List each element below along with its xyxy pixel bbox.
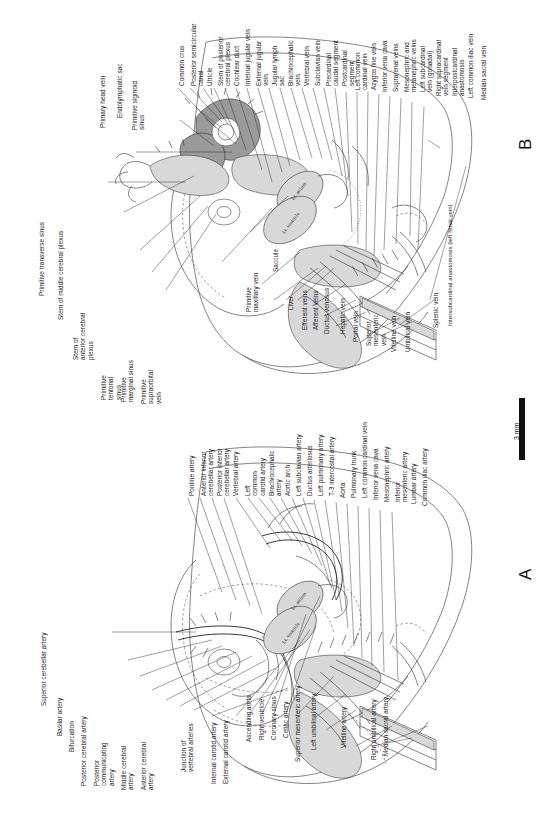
label-posterior-communicating-artery: Posterior communicating artery: [93, 742, 115, 786]
label-vertebral-artery: Vertebral artery: [232, 452, 239, 497]
label-stem-anterior-cerebral-plexus: Stem of anterior cerebral plexus: [72, 313, 94, 360]
label-brachiocephalic-vein: Brachiocephalic vein: [287, 40, 302, 86]
label-liver: Liver: [287, 296, 294, 310]
label-superior-mesenteric-vein: Superior mesenteric vein: [365, 314, 387, 346]
label-pulmonary-trunk: Pulmonary trunk: [350, 451, 357, 498]
label-junction-of-vertebral-arteries: Junction of vertebral arteries: [180, 723, 195, 772]
label-subclavian-vein: Subclavian vein: [314, 40, 321, 86]
label-primitive-transverse-sinus: Primitive transverse sinus: [38, 222, 45, 296]
label-right-ventricle: Right ventricle: [258, 699, 265, 740]
label-external-carotid-artery: External carotid artery: [222, 720, 229, 784]
label-stem-posterior-cerebral-plexus: Stem of posterior cerebral plexus: [217, 36, 232, 86]
label-cochlear-duct: Cochlear duct: [233, 46, 240, 86]
label-inferior-mesenteric-artery: Inferior mesenteric artery: [394, 452, 409, 502]
label-posterior-semicircular-canal: Posterior semicircular canal: [190, 23, 205, 86]
label-primitive-tentorial-sinus: Primitive tentorial sinus: [100, 375, 122, 400]
label-ductus-venosus: Ductus venosus: [323, 288, 330, 334]
label-aorta: Aorta: [339, 482, 346, 498]
label-ascending-aorta: Ascending aorta: [245, 695, 252, 742]
scale-bar-label: 3 mm: [513, 423, 520, 441]
label-mesonephric-artery: Mesonephric artery: [383, 446, 390, 502]
label-posterior-inferior-cerebellar-artery: Posterior inferior cerebellar artery: [216, 448, 231, 496]
label-hepatic-vein: Hepatic vein: [339, 298, 346, 334]
label-lumbar-artery: Lumbar artery: [410, 464, 417, 504]
label-endolymphatic-sac: Endolymphatic sac: [116, 64, 123, 119]
label-superior-cerebellar-artery: Superior cerebellar artery: [40, 633, 47, 706]
label-median-sacral-vein: Median sacral vein: [480, 46, 487, 100]
label-right-umbilical-artery: Right umbilical artery: [370, 699, 377, 760]
label-left-pulmonary-artery: Left pulmonary artery: [317, 435, 324, 496]
label-common-crus: Common crus: [178, 46, 185, 86]
label-precardinal-caudal-segment: Precardinal caudal segment: [325, 40, 340, 86]
label-suprarenal-veins: Suprarenal veins: [392, 43, 399, 92]
label-middle-cerebral-artery: Middle cerebral artery: [120, 746, 135, 790]
label-anterior-inferior-cerebellar-artery: Anterior inferior cerebellar artery: [200, 449, 215, 496]
label-aortic-arch: Aortic arch: [284, 465, 291, 496]
label-primitive-supraorbital-vein: Primitive supraorbital vein: [140, 370, 162, 404]
label-jugular-lymph-sac: Jugular lymph sac: [271, 46, 286, 86]
label-t3-intercostal-artery: T-3 intercostal artery: [328, 437, 335, 496]
label-primary-head-vein: Primary head vein: [99, 76, 106, 128]
label-inferior-vena-cava-a: Inferior vena cava: [372, 448, 379, 500]
label-pontine-artery: Pontine artery: [188, 456, 195, 497]
label-posterior-cerebral-artery: Posterior cerebral artery: [80, 716, 87, 786]
label-splenic-vein: Splenic vein: [432, 293, 439, 328]
label-left-umbilical-artery: Left umbilical artery: [310, 694, 317, 750]
label-ductus-arteriosus: Ductus arteriosus: [306, 445, 313, 496]
label-common-iliac-artery: Common iliac artery: [421, 448, 428, 506]
label-external-jugular-vein: External jugular vein: [255, 41, 270, 86]
label-left-common-cardinal-vein: Left common cardinal vein: [354, 53, 369, 91]
label-coronary-sinus: Coronary sinus: [270, 696, 277, 740]
label-left-common-carotid-artery: Left common carotid artery: [244, 458, 266, 496]
label-vitelline-vein-b: Vitelline vein: [390, 316, 397, 352]
label-primitive-maxillary-vein: Primitive maxillary vein: [245, 273, 260, 312]
label-inferior-vena-cava-b: Inferior vena cava: [381, 40, 388, 92]
label-afferent-veins: Afferent veins: [312, 290, 319, 330]
label-umbilical-vein: Umbilical vein: [404, 312, 411, 352]
label-intersubcardinal-anastomosis: Intersubcardinal anastomosis (left renal…: [447, 204, 454, 326]
figure-plate: Lt. atrium Lt. ventricle: [0, 0, 548, 821]
label-primitive-marginal-sinus: Primitive marginal sinus: [120, 360, 135, 402]
label-stem-middle-cerebral-plexus: Stem of middle cerebral plexus: [57, 231, 64, 320]
label-vertebral-vein: Vertebral vein: [303, 46, 310, 86]
label-saccule: Saccule: [272, 249, 279, 272]
panel-b-gonad-marker: [428, 140, 440, 148]
label-anterior-cerebral-artery: Anterior cerebral artery: [140, 742, 155, 790]
label-primitive-sigmoid-sinus: Primitive sigmoid sinus: [131, 81, 146, 130]
label-left-subcardinal-vein: Left subcardinal vein (gonadal): [419, 46, 434, 92]
label-vitelline-artery-a: Vitelline artery: [340, 707, 347, 748]
label-internal-jugular-vein: Internal jugular vein: [244, 29, 251, 86]
label-left-subclavian-artery: Left subclavian artery: [295, 434, 302, 496]
label-left-common-cardinal-vein-a: Left common cardinal vein: [361, 422, 368, 498]
label-superior-mesenteric-artery: Superior mesenteric artery: [294, 685, 301, 762]
label-basilar-artery: Basilar artery: [56, 698, 63, 736]
label-efferent-veins: Efferent veins: [301, 290, 308, 330]
label-azygos-line-vein: Azygos line vein: [370, 43, 377, 90]
label-brachiocephalic-artery: Brachiocephalic artery: [268, 450, 283, 496]
panel-letter-a: A: [516, 569, 536, 580]
label-mesonephric-metanephric-veins: Mesonephric and metanephric veins: [403, 39, 418, 92]
label-interpostcardinal-anastomosis: Interpostcardinal anastomosis: [451, 48, 466, 96]
label-bifurcation: Bifurcation: [68, 721, 75, 752]
label-right-supracardinal-vein-segment: Right supracardinal vein segment: [435, 40, 450, 96]
label-internal-carotid-artery: Internal carotid artery: [210, 722, 217, 784]
label-median-sacral-artery: Median sacral artery: [382, 697, 389, 756]
label-portal-vein: Portal vein: [352, 311, 359, 342]
label-celiac-artery: Celiac artery: [282, 701, 289, 738]
label-utricle: Utricle: [206, 68, 213, 86]
label-left-common-iliac-vein: Left common iliac vein: [467, 34, 474, 98]
panel-letter-b: B: [516, 139, 536, 150]
